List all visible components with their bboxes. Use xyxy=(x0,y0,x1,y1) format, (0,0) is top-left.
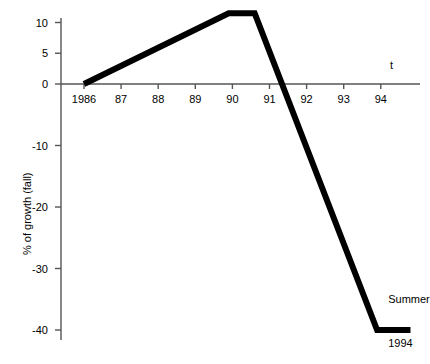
chart-annotation: 1994 xyxy=(388,338,412,349)
chart-annotation: Summer xyxy=(388,294,430,305)
data-line-summer xyxy=(84,13,410,330)
x-axis-ticks xyxy=(84,84,381,89)
y-tick-label: -10 xyxy=(0,140,48,151)
x-tick-label: 1986 xyxy=(72,94,96,105)
y-axis-ticks xyxy=(55,23,61,331)
y-tick-label: -40 xyxy=(0,325,48,336)
y-tick-label: 10 xyxy=(0,17,48,28)
x-axis-title: t xyxy=(390,60,393,71)
x-tick-label: 89 xyxy=(189,94,201,105)
x-tick-label: 91 xyxy=(263,94,275,105)
y-axis-title: % of growth (fall) xyxy=(22,172,33,255)
chart-figure: 198687888990919293941050-10-20-30-40 % o… xyxy=(0,0,430,364)
y-tick-label: 5 xyxy=(0,48,48,59)
x-tick-label: 92 xyxy=(300,94,312,105)
y-tick-label: 0 xyxy=(0,79,48,90)
data-series-group xyxy=(84,13,410,330)
x-tick-label: 90 xyxy=(226,94,238,105)
x-tick-label: 87 xyxy=(115,94,127,105)
chart-plot-area xyxy=(0,0,430,364)
x-tick-label: 94 xyxy=(375,94,387,105)
y-tick-label: -30 xyxy=(0,263,48,274)
x-tick-label: 93 xyxy=(338,94,350,105)
x-tick-label: 88 xyxy=(152,94,164,105)
